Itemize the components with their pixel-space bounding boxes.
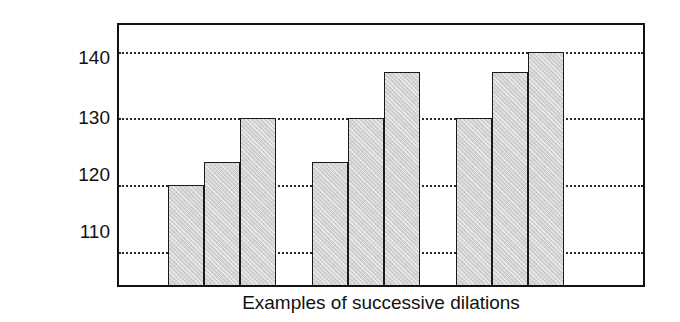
- y-axis-title: Volume (mL): [14, 0, 48, 57]
- y-tick-label-130: 130: [78, 108, 110, 128]
- y-tick-label-110: 110: [80, 222, 110, 242]
- bar-series: [119, 25, 643, 285]
- bar: [528, 52, 564, 285]
- plot-area: [117, 23, 645, 287]
- y-tick-label-140: 140: [78, 48, 110, 68]
- y-axis-tick-labels: 140 130 120 110: [58, 23, 114, 287]
- x-axis-title: Examples of successive dilations: [117, 292, 645, 314]
- bar: [456, 118, 492, 285]
- y-tick-label-120: 120: [78, 165, 110, 185]
- bar: [240, 118, 276, 285]
- bar: [348, 118, 384, 285]
- bar: [168, 185, 204, 285]
- bar: [492, 72, 528, 285]
- bar: [312, 162, 348, 285]
- bar-chart-figure: Volume (mL) 140 130 120 110 Examples of …: [0, 0, 680, 322]
- bar: [204, 162, 240, 285]
- bar: [384, 72, 420, 285]
